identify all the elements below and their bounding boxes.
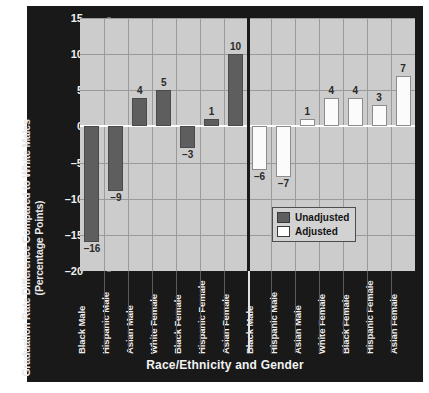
x-axis-tick: Asian Female xyxy=(391,271,415,356)
y-axis-tick-label: –10 xyxy=(55,193,83,205)
bar-value-label: –3 xyxy=(174,149,202,160)
x-tick-separator xyxy=(343,271,344,353)
bar[interactable] xyxy=(396,76,411,127)
bar[interactable] xyxy=(372,105,387,127)
bar-value-label: 1 xyxy=(293,106,321,117)
y-axis-tick-label: 0 xyxy=(55,120,83,132)
x-tick-separator xyxy=(224,271,225,353)
x-tick-separator xyxy=(152,271,153,353)
legend-label-unadjusted: Unadjusted xyxy=(295,212,349,223)
x-tick-separator xyxy=(104,271,105,353)
x-tick-separator xyxy=(295,271,296,353)
bar[interactable] xyxy=(180,126,195,148)
grid-line-vertical xyxy=(367,18,368,271)
x-axis-tick-label: Hispanic Female xyxy=(196,281,207,354)
grid-line-vertical xyxy=(200,18,201,271)
bar[interactable] xyxy=(204,119,219,126)
legend-swatch-adjusted xyxy=(277,226,290,237)
y-axis-tick-label: 10 xyxy=(55,48,83,60)
y-axis-tick-label: –5 xyxy=(55,157,83,169)
x-tick-separator xyxy=(367,271,368,353)
bar-value-label: –7 xyxy=(269,178,297,189)
x-axis-tick-label: Asian Female xyxy=(388,294,399,354)
bar[interactable] xyxy=(108,126,123,191)
bar[interactable] xyxy=(228,54,243,126)
y-axis-tick-label: –20 xyxy=(55,265,83,277)
y-axis-title-line1: Graduation Rate Difference Compared to W… xyxy=(20,119,32,376)
bar[interactable] xyxy=(324,98,339,127)
bar[interactable] xyxy=(132,98,147,127)
x-axis-tick-label: Black Male xyxy=(76,306,87,354)
grid-line-vertical xyxy=(224,18,225,271)
bar-value-label: 1 xyxy=(198,106,226,117)
bar-value-label: 3 xyxy=(365,92,393,103)
grid-line-vertical xyxy=(391,18,392,271)
bar-value-label: 7 xyxy=(389,63,415,74)
x-axis-tick-label: Hispanic Male xyxy=(268,292,279,354)
bar-value-label: –9 xyxy=(102,192,130,203)
x-axis-tick-label: Black Female xyxy=(172,294,183,354)
bar-value-label: 10 xyxy=(222,41,250,52)
y-axis-tick-label: 15 xyxy=(55,12,83,24)
chart-figure: Graduation Rate Difference Compared to W… xyxy=(27,6,423,382)
grid-line-vertical xyxy=(128,18,129,271)
x-tick-separator xyxy=(391,271,392,353)
x-axis-tick-label: White Female xyxy=(316,294,327,354)
grid-line-vertical xyxy=(176,18,177,271)
x-axis-tick-label: Black Female xyxy=(340,294,351,354)
x-axis-tick-label: Hispanic Female xyxy=(364,281,375,354)
bar[interactable] xyxy=(156,90,171,126)
y-axis-title: Graduation Rate Difference Compared to W… xyxy=(20,118,46,378)
chart-legend: Unadjusted Adjusted xyxy=(272,207,356,242)
y-axis-title-line2: (Percentage Points) xyxy=(33,118,46,378)
bar-value-label: –16 xyxy=(80,243,106,254)
legend-item-unadjusted[interactable]: Unadjusted xyxy=(277,212,349,223)
legend-item-adjusted[interactable]: Adjusted xyxy=(277,226,349,237)
legend-swatch-unadjusted xyxy=(277,212,290,223)
group-divider xyxy=(247,18,250,271)
bar[interactable] xyxy=(276,126,291,177)
x-tick-separator xyxy=(200,271,201,353)
x-group-separator xyxy=(248,271,250,353)
x-axis-title: Race/Ethnicity and Gender xyxy=(27,358,423,372)
x-axis-tick-label: Asian Male xyxy=(124,305,135,354)
bar[interactable] xyxy=(300,119,315,126)
x-tick-separator xyxy=(128,271,129,353)
x-axis-tick-label: Asian Male xyxy=(292,305,303,354)
x-tick-separator xyxy=(271,271,272,353)
x-tick-separator xyxy=(176,271,177,353)
grid-line-vertical xyxy=(152,18,153,271)
x-axis-tick-label: White Female xyxy=(148,294,159,354)
bar[interactable] xyxy=(252,126,267,169)
x-tick-separator xyxy=(319,271,320,353)
bar[interactable] xyxy=(84,126,99,242)
plot-area: –16–945–3110–6–714437 xyxy=(80,18,415,271)
y-axis-tick-label: 5 xyxy=(55,84,83,96)
bar-value-label: 5 xyxy=(150,77,178,88)
x-axis-tick-label: Asian Female xyxy=(220,294,231,354)
bar[interactable] xyxy=(348,98,363,127)
x-axis-tick-label: Hispanic Male xyxy=(100,292,111,354)
x-axis-ticks: Black MaleHispanic MaleAsian MaleWhite F… xyxy=(80,271,415,356)
grid-line-vertical xyxy=(104,18,105,271)
y-axis-tick-label: –15 xyxy=(55,229,83,241)
legend-label-adjusted: Adjusted xyxy=(295,226,338,237)
